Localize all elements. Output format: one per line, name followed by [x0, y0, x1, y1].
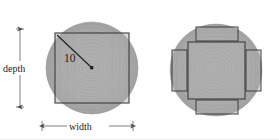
bottom-board [196, 100, 238, 114]
top-board [196, 27, 238, 41]
left-diagram-group: 10 depth width [1, 16, 140, 133]
right-board [246, 50, 261, 91]
right-diagram-group [160, 17, 265, 117]
radius-label: 10 [64, 52, 76, 64]
diagram-svg: 10 depth width [0, 0, 279, 140]
center-square [188, 42, 245, 99]
depth-label: depth [3, 63, 25, 74]
woodworking-figure-canvas: 10 depth width [0, 0, 279, 140]
left-board [172, 50, 187, 91]
width-label: width [69, 121, 92, 132]
